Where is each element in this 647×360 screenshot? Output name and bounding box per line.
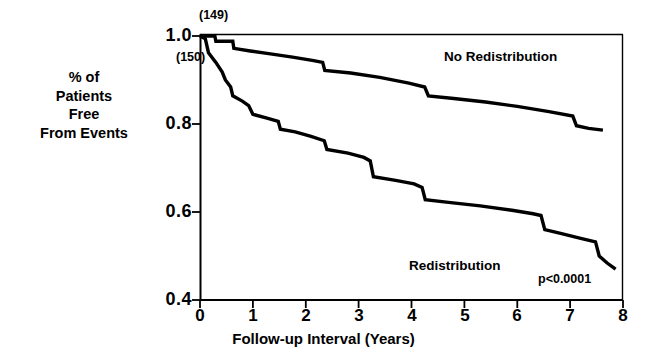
x-tick-label-7: 7: [557, 306, 583, 326]
x-tick-label-3: 3: [346, 306, 372, 326]
x-tick-label-1: 1: [240, 306, 266, 326]
y-tick-label-0-4: 0.4: [134, 289, 192, 310]
x-axis-title: Follow-up Interval (Years): [0, 330, 647, 347]
p-value-label: p<0.0001: [538, 272, 591, 286]
series-label-redistribution: Redistribution: [409, 258, 501, 273]
annotation-n-redistribution: (150): [176, 50, 205, 64]
annotation-n-no-redistribution: (149): [199, 8, 228, 22]
y-axis-title: % of Patients Free From Events: [14, 68, 154, 142]
curve-redistribution: [200, 36, 616, 269]
y-tick-label-0-8: 0.8: [134, 113, 192, 134]
y-tick-label-0-6: 0.6: [134, 201, 192, 222]
series-group: [200, 36, 616, 269]
series-label-no-redistribution: No Redistribution: [444, 49, 557, 64]
x-tick-label-6: 6: [504, 306, 530, 326]
x-tick-label-4: 4: [399, 306, 425, 326]
x-tick-label-2: 2: [293, 306, 319, 326]
y-tick-label-1-0: 1.0: [134, 25, 192, 46]
y-axis-title-line-2: Patients: [14, 87, 154, 106]
y-axis-title-line-4: From Events: [14, 124, 154, 143]
y-axis-title-line-1: % of: [14, 68, 154, 87]
axis-group: [192, 34, 623, 308]
y-tick-marks: [192, 36, 200, 300]
x-tick-label-0: 0: [187, 306, 213, 326]
y-axis-title-line-3: Free: [14, 105, 154, 124]
survival-curve-figure: % of Patients Free From Events 1.0 0.8 0…: [0, 0, 647, 360]
x-tick-label-8: 8: [610, 306, 636, 326]
x-tick-label-5: 5: [452, 306, 478, 326]
